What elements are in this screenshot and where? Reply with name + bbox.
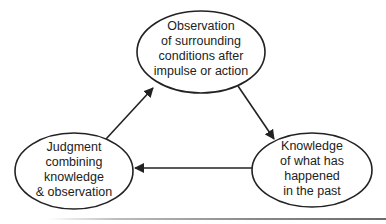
arrow-judgment-to-observation (106, 88, 153, 139)
judgment-line-2: combining (24, 155, 124, 170)
knowledge-line-4: in the past (262, 184, 362, 199)
knowledge-line-1: Knowledge (262, 139, 362, 154)
knowledge-node-label: Knowledge of what has happened in the pa… (262, 139, 362, 199)
bottom-divider (48, 218, 386, 220)
observation-line-1: Observation (141, 19, 261, 34)
knowledge-line-3: happened (262, 169, 362, 184)
knowledge-line-2: of what has (262, 154, 362, 169)
observation-line-4: impulse or action (141, 64, 261, 79)
judgment-line-3: knowledge (24, 170, 124, 185)
judgment-line-1: Judgment (24, 140, 124, 155)
observation-node-label: Observation of surrounding conditions af… (141, 19, 261, 79)
judgment-line-4: & observation (24, 185, 124, 200)
observation-line-3: conditions after (141, 49, 261, 64)
judgment-node-label: Judgment combining knowledge & observati… (24, 140, 124, 200)
observation-line-2: of surrounding (141, 34, 261, 49)
arrow-observation-to-knowledge (238, 86, 274, 139)
